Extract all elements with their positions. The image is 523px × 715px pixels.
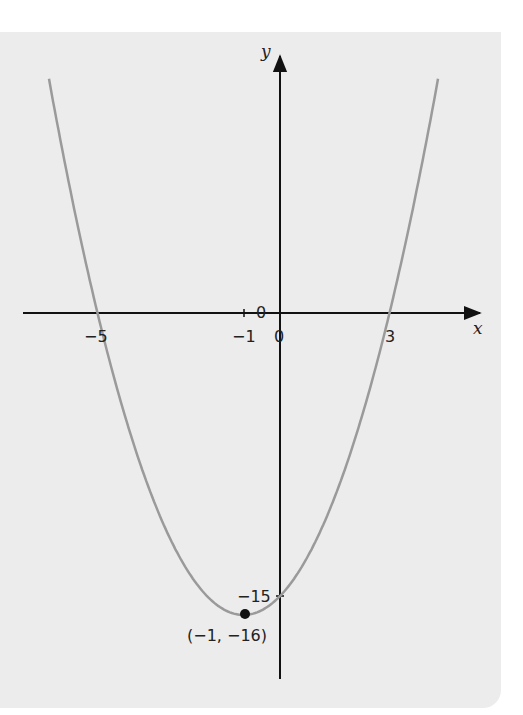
x-label-neg5: −5 [84,327,108,346]
x-label-neg1: −1 [232,327,256,346]
parabola-chart: y x −5 −1 0 3 0 −15 (−1, −16) [0,0,523,715]
vertex-point [240,609,250,619]
parabola-curve [49,79,438,615]
x-label-zero: 0 [274,327,284,346]
vertex-label: (−1, −16) [187,626,267,645]
y-intercept-label: −15 [237,587,271,606]
x-axis-label: x [473,318,483,338]
y-label-zero: 0 [256,303,266,322]
x-label-three: 3 [385,327,395,346]
y-axis-label: y [260,41,271,61]
